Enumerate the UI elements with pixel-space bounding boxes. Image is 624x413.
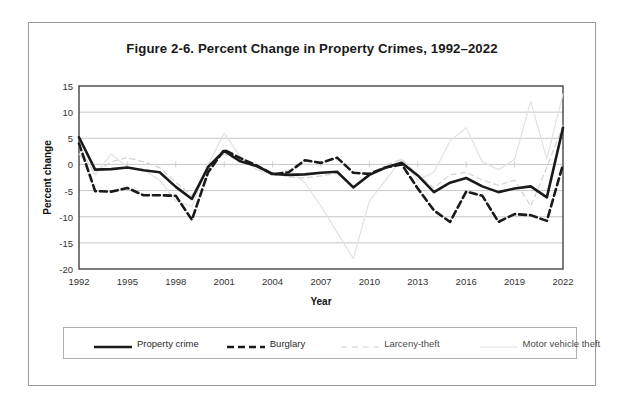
y-tick-label: -20 [59,264,73,275]
legend-swatch-solid-line [94,338,132,348]
legend-label: Motor vehicle theft [523,338,601,349]
legend-item-larceny-theft[interactable]: Larceny-theft [341,338,439,349]
y-tick-label: -15 [59,237,73,248]
y-axis-title: Percent change [40,86,54,269]
y-tick-label: 15 [62,81,73,92]
legend-item-motor-vehicle-theft[interactable]: Motor vehicle theft [480,338,601,349]
x-axis-title: Year [79,296,563,307]
x-tick-label: 2004 [262,276,283,287]
y-tick-label: 5 [68,133,73,144]
y-axis-title-text: Percent change [42,140,53,214]
chart-legend: Property crimeBurglaryLarceny-theftMotor… [63,327,577,359]
x-tick-label: 2019 [504,276,525,287]
figure-frame: Figure 2-6. Percent Change in Property C… [28,22,596,386]
plot-area [79,86,563,269]
legend-swatch-solid-line [480,338,518,348]
x-tick-label: 2001 [214,276,235,287]
chart-title: Figure 2-6. Percent Change in Property C… [29,41,595,56]
x-tick-label: 2016 [456,276,477,287]
legend-swatch-dashed-line [341,338,379,348]
plot-frame [79,86,563,269]
x-tick-label: 2010 [359,276,380,287]
legend-label: Property crime [137,338,199,349]
x-tick-label: 2022 [552,276,573,287]
x-tick-label: 1995 [117,276,138,287]
y-tick-label: -10 [59,211,73,222]
x-tick-label: 2007 [310,276,331,287]
y-tick-label: 10 [62,107,73,118]
legend-item-property-crime[interactable]: Property crime [94,338,199,349]
legend-item-burglary[interactable]: Burglary [227,338,305,349]
x-tick-label: 1998 [165,276,186,287]
legend-swatch-dashed-line [227,338,265,348]
legend-label: Larceny-theft [384,338,439,349]
y-tick-label: -5 [65,185,73,196]
x-tick-label: 1992 [68,276,89,287]
plot-wrap: 151050-5-10-15-20 1992199519982001200420… [79,86,563,269]
x-tick-label: 2013 [407,276,428,287]
legend-label: Burglary [270,338,305,349]
chart-plot-svg [79,86,563,269]
y-tick-label: 0 [68,159,73,170]
